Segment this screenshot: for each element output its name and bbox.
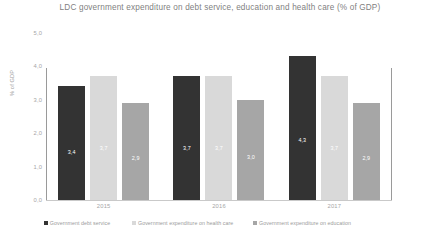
chart-legend: Government debt serviceGovernment expend… <box>44 220 384 226</box>
bar[interactable]: 3,7 <box>173 76 200 200</box>
legend-item[interactable]: Government debt service <box>44 220 110 226</box>
legend-item[interactable]: Government expenditure on education <box>253 220 351 226</box>
legend-swatch-icon <box>132 221 136 225</box>
y-axis-tick-label: 1,0 <box>24 164 42 170</box>
legend-label: Government debt service <box>50 220 110 226</box>
bar-value-label: 2,9 <box>353 155 380 161</box>
bar[interactable]: 3,7 <box>321 76 348 200</box>
x-axis-tick-label: 2017 <box>304 203 364 209</box>
bar[interactable]: 3,0 <box>237 100 264 200</box>
bar-value-label: 3,7 <box>90 145 117 151</box>
legend-item[interactable]: Government expenditure on health care <box>132 220 233 226</box>
legend-label: Government expenditure on education <box>259 220 351 226</box>
legend-swatch-icon <box>44 221 48 225</box>
bar-value-label: 3,7 <box>173 145 200 151</box>
plot-area: 3,43,72,93,73,73,04,33,72,9 <box>46 33 392 200</box>
legend-label: Government expenditure on health care <box>138 220 233 226</box>
bar[interactable]: 3,7 <box>205 76 232 200</box>
bar[interactable]: 3,7 <box>90 76 117 200</box>
legend-swatch-icon <box>253 221 257 225</box>
page-title: LDC government expenditure on debt servi… <box>50 3 390 12</box>
y-axis-tick-label: 2,0 <box>24 130 42 136</box>
bar-group: 3,43,72,9 <box>46 33 161 200</box>
bar[interactable]: 2,9 <box>122 103 149 200</box>
y-axis-tick-label: 5,0 <box>24 30 42 36</box>
bar-value-label: 2,9 <box>122 155 149 161</box>
y-axis-tick-label: 3,0 <box>24 97 42 103</box>
bar-value-label: 3,4 <box>58 149 85 155</box>
bar[interactable]: 4,3 <box>289 56 316 200</box>
y-axis-ticks: 0,01,02,03,04,05,0 <box>18 0 42 236</box>
bar[interactable]: 2,9 <box>353 103 380 200</box>
bar-value-label: 4,3 <box>289 137 316 143</box>
bar-group: 4,33,72,9 <box>277 33 392 200</box>
x-axis-line <box>46 200 392 201</box>
bar-value-label: 3,7 <box>321 145 348 151</box>
y-axis-title: % of GDP <box>9 70 15 96</box>
x-axis-tick-label: 2015 <box>74 203 134 209</box>
bar-chart: LDC government expenditure on debt servi… <box>0 0 426 236</box>
bar-value-label: 3,7 <box>205 145 232 151</box>
y-axis-tick-label: 4,0 <box>24 63 42 69</box>
bar[interactable]: 3,4 <box>58 86 85 200</box>
bar-group: 3,73,73,0 <box>161 33 276 200</box>
x-axis-tick-label: 2016 <box>189 203 249 209</box>
y-axis-tick-label: 0,0 <box>24 197 42 203</box>
bar-value-label: 3,0 <box>237 154 264 160</box>
